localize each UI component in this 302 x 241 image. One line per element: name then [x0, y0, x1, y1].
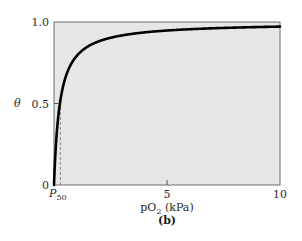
y-tick-label: 0	[42, 179, 49, 192]
x-tick-label: 10	[273, 188, 287, 201]
panel-label: (b)	[158, 214, 176, 227]
oxygen-binding-chart: 51000.51.0 θ P50 pO2 (kPa) (b)	[0, 0, 302, 241]
y-tick-label: 1.0	[32, 16, 50, 29]
y-tick-label: 0.5	[32, 98, 50, 111]
y-axis-label: θ	[14, 97, 21, 110]
p50-label: P50	[48, 187, 67, 202]
x-tick-label: 5	[164, 188, 171, 201]
